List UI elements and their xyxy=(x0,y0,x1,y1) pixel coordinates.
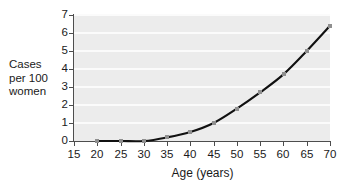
x-axis-tick xyxy=(260,142,261,146)
y-axis-tick-label: 7 xyxy=(48,9,68,21)
y-axis-tick xyxy=(69,87,73,88)
y-axis-tick xyxy=(69,105,73,106)
y-axis-tick xyxy=(69,123,73,124)
x-axis-tick xyxy=(237,142,238,146)
y-axis-tick-labels: 01234567 xyxy=(44,0,68,191)
gridline xyxy=(74,14,330,16)
x-axis-tick xyxy=(283,142,284,146)
gridline xyxy=(74,104,330,106)
x-axis-tick xyxy=(214,142,215,146)
x-axis-tick-label: 70 xyxy=(315,148,345,160)
gridline xyxy=(74,50,330,52)
data-point-marker xyxy=(282,72,286,76)
y-axis-tick-label: 0 xyxy=(48,135,68,147)
x-axis-title: Age (years) xyxy=(0,166,345,180)
y-axis-tick-label: 6 xyxy=(48,27,68,39)
gridline xyxy=(74,86,330,88)
data-point-marker xyxy=(212,121,216,125)
data-point-marker xyxy=(95,139,99,143)
y-axis-tick-label: 5 xyxy=(48,45,68,57)
y-axis-tick-label: 2 xyxy=(48,99,68,111)
data-point-marker xyxy=(188,130,192,134)
x-axis-tick xyxy=(307,142,308,146)
y-axis-tick xyxy=(69,33,73,34)
y-axis-tick-label: 3 xyxy=(48,81,68,93)
x-axis-line xyxy=(73,141,331,142)
data-point-marker xyxy=(165,135,169,139)
y-axis-tick xyxy=(69,141,73,142)
gridline xyxy=(74,122,330,124)
x-axis-tick xyxy=(74,142,75,146)
y-axis-line xyxy=(73,14,74,142)
y-axis-tick xyxy=(69,51,73,52)
chart-figure: Cases per 100 women 01234567 15202530354… xyxy=(0,0,345,191)
x-axis-tick xyxy=(330,142,331,146)
y-axis-tick xyxy=(69,15,73,16)
gridline xyxy=(74,68,330,70)
plot-area xyxy=(74,15,330,141)
data-point-marker xyxy=(258,90,262,94)
data-point-marker xyxy=(142,139,146,143)
data-point-marker xyxy=(328,24,332,28)
data-point-marker xyxy=(235,107,239,111)
y-axis-tick xyxy=(69,69,73,70)
y-axis-tick-label: 4 xyxy=(48,63,68,75)
data-point-marker xyxy=(119,139,123,143)
data-point-marker xyxy=(305,49,309,53)
gridline xyxy=(74,32,330,34)
y-axis-tick-label: 1 xyxy=(48,117,68,129)
x-axis-tick xyxy=(167,142,168,146)
x-axis-tick xyxy=(190,142,191,146)
